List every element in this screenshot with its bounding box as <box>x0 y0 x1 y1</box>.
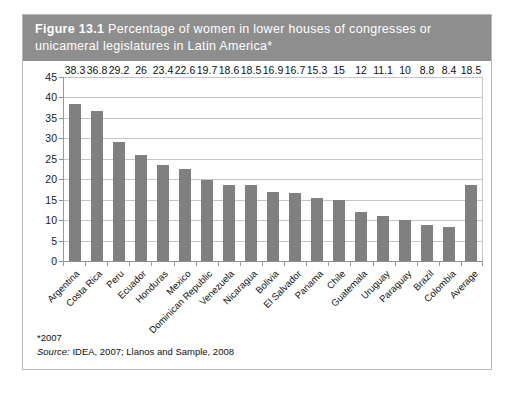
bar-slot: 15 <box>328 77 350 261</box>
bar-slot: 18.5 <box>460 77 482 261</box>
y-axis-tick-mark <box>59 159 63 160</box>
x-axis-label-cell: Costa Rica <box>85 267 107 319</box>
y-axis-tick-label: 0 <box>51 255 57 267</box>
bar[interactable]: 16.9 <box>267 192 279 261</box>
bar[interactable]: 26 <box>135 155 147 261</box>
y-axis-tick-mark <box>59 220 63 221</box>
y-axis-tick-mark <box>59 138 63 139</box>
bar[interactable]: 15.3 <box>311 198 323 261</box>
x-axis-tick-cell <box>284 261 306 266</box>
source-label: Source: <box>37 346 70 357</box>
x-axis-tick-cell <box>306 261 328 266</box>
x-axis-tick-mark <box>482 261 483 266</box>
x-axis-tick-mark <box>151 261 152 266</box>
y-axis-tick-label: 5 <box>51 235 57 247</box>
bar[interactable]: 8.8 <box>421 225 433 261</box>
bar[interactable]: 8.4 <box>443 227 455 261</box>
bar-value-label: 36.8 <box>87 64 107 76</box>
bar[interactable]: 18.5 <box>245 185 257 261</box>
x-axis-tick-cell <box>262 261 284 266</box>
bar-slot: 23.4 <box>152 77 174 261</box>
x-axis-tick-cell <box>218 261 240 266</box>
x-axis-tick-cell <box>129 261 151 266</box>
bar-slot: 10 <box>394 77 416 261</box>
bar[interactable]: 23.4 <box>157 165 169 261</box>
bar-value-label: 15.3 <box>307 64 327 76</box>
bar[interactable]: 18.6 <box>223 185 235 261</box>
bar-value-label: 19.7 <box>197 64 217 76</box>
bar-slot: 8.8 <box>416 77 438 261</box>
bar[interactable]: 36.8 <box>91 111 103 261</box>
bar-value-label: 16.7 <box>285 64 305 76</box>
y-axis-tick-mark <box>59 241 63 242</box>
figure-title-line-1: Figure 13.1 Percentage of women in lower… <box>35 21 479 38</box>
x-axis-tick-mark <box>373 261 374 266</box>
y-axis-tick-label: 25 <box>45 153 57 165</box>
x-axis-tick-mark <box>284 261 285 266</box>
x-axis-tick-mark <box>439 261 440 266</box>
bar-value-label: 12 <box>355 64 367 76</box>
x-axis-tick-cell <box>63 261 85 266</box>
figure-number: Figure 13.1 <box>35 22 104 36</box>
bar-slot: 29.2 <box>108 77 130 261</box>
bar-slot: 38.3 <box>64 77 86 261</box>
bar[interactable]: 15 <box>333 200 345 261</box>
bar[interactable]: 16.7 <box>289 193 301 261</box>
figure-header: Figure 13.1 Percentage of women in lower… <box>23 15 491 61</box>
bar-slot: 16.9 <box>262 77 284 261</box>
y-axis-tick-mark <box>59 77 63 78</box>
x-axis-tick-cell <box>85 261 107 266</box>
bar-value-label: 18.5 <box>241 64 261 76</box>
x-axis-tick-mark <box>417 261 418 266</box>
bar-value-label: 38.3 <box>65 64 85 76</box>
bar-value-label: 18.5 <box>461 64 481 76</box>
y-axis-tick-mark <box>59 179 63 180</box>
bar[interactable]: 10 <box>399 220 411 261</box>
y-axis-tick-label: 20 <box>45 173 57 185</box>
bar-slot: 16.7 <box>284 77 306 261</box>
bar[interactable]: 38.3 <box>69 104 81 261</box>
bar[interactable]: 18.5 <box>465 185 477 261</box>
bar[interactable]: 19.7 <box>201 180 213 261</box>
bar-slot: 19.7 <box>196 77 218 261</box>
bar-slot: 18.5 <box>240 77 262 261</box>
bar[interactable]: 29.2 <box>113 142 125 261</box>
bar-value-label: 8.4 <box>442 64 457 76</box>
y-axis-tick-mark <box>59 118 63 119</box>
x-axis-tick-cell <box>174 261 196 266</box>
plot-frame: 38.336.829.22623.422.619.718.618.516.916… <box>63 77 483 261</box>
x-axis-tick-mark <box>107 261 108 266</box>
bar-value-label: 22.6 <box>175 64 195 76</box>
figure-footer: *2007 Source: IDEA, 2007; Llanos and Sam… <box>23 331 491 369</box>
x-axis-tick-mark <box>262 261 263 266</box>
chart-plot-region: 38.336.829.22623.422.619.718.618.516.916… <box>23 61 491 319</box>
y-axis-tick-label: 45 <box>45 71 57 83</box>
bar-value-label: 11.1 <box>373 64 393 76</box>
figure-box: Figure 13.1 Percentage of women in lower… <box>22 14 492 370</box>
x-axis-tick-mark <box>395 261 396 266</box>
x-axis-label-cell: Average <box>461 267 483 319</box>
bar-value-label: 29.2 <box>109 64 129 76</box>
plot-inner: 38.336.829.22623.422.619.718.618.516.916… <box>63 77 483 261</box>
x-axis-tick-cell <box>151 261 173 266</box>
bar-value-label: 18.6 <box>219 64 239 76</box>
source-line: Source: IDEA, 2007; Llanos and Sample, 2… <box>37 345 477 359</box>
x-axis-tick-cell <box>350 261 372 266</box>
x-axis-tick-cell <box>240 261 262 266</box>
bar-value-label: 26 <box>135 64 147 76</box>
bar[interactable]: 12 <box>355 212 367 261</box>
x-axis-tick-cell <box>107 261 129 266</box>
bar[interactable]: 22.6 <box>179 169 191 261</box>
source-text: IDEA, 2007; Llanos and Sample, 2008 <box>70 346 234 357</box>
x-axis-tick-cell <box>461 261 483 266</box>
x-axis-tick-cell <box>417 261 439 266</box>
bar[interactable]: 11.1 <box>377 216 389 261</box>
x-axis-tick-cell <box>328 261 350 266</box>
x-axis-label-cell: Paraguay <box>395 267 417 319</box>
x-axis-tick-mark <box>129 261 130 266</box>
bar-slot: 36.8 <box>86 77 108 261</box>
x-axis-label-cell: Panama <box>306 267 328 319</box>
bar-slot: 12 <box>350 77 372 261</box>
figure-title-text-1: Percentage of women in lower houses of c… <box>108 22 431 36</box>
bar-value-label: 8.8 <box>420 64 435 76</box>
